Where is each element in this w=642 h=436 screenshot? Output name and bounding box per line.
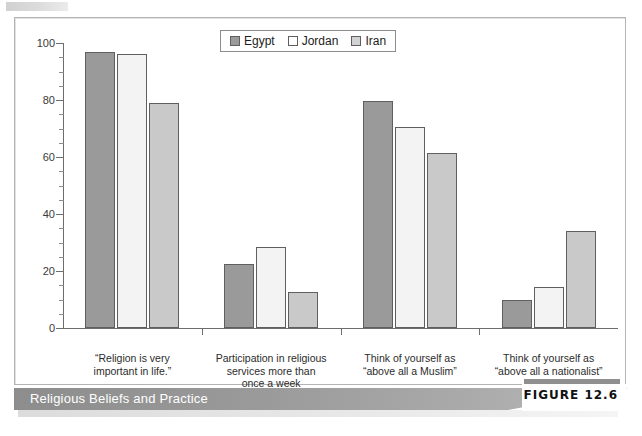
chart-frame: 020406080100 EgyptJordanIran “Religion i… xyxy=(14,17,626,385)
bar-egypt xyxy=(224,264,254,328)
legend: EgyptJordanIran xyxy=(220,30,396,52)
bar-group xyxy=(85,43,179,328)
y-tick-label: 60 xyxy=(43,151,55,163)
x-category-label: Think of yourself as“above all a Muslim” xyxy=(341,352,480,377)
y-tick-label: 40 xyxy=(43,208,55,220)
legend-label: Egypt xyxy=(244,34,275,48)
y-tick-label: 0 xyxy=(49,322,55,334)
y-axis-labels: 020406080100 xyxy=(15,43,55,328)
bar-group xyxy=(224,43,318,328)
x-category-label: Think of yourself as“above all a nationa… xyxy=(479,352,618,377)
legend-swatch-icon xyxy=(288,36,298,46)
y-tick-label: 20 xyxy=(43,265,55,277)
bar-iran xyxy=(427,153,457,328)
legend-label: Iran xyxy=(365,34,386,48)
x-category-label: “Religion is veryimportant in life.” xyxy=(63,352,202,377)
legend-label: Jordan xyxy=(302,34,339,48)
legend-swatch-icon xyxy=(351,36,361,46)
bar-group xyxy=(363,43,457,328)
x-category-label-line: Participation in religious xyxy=(202,352,341,365)
bar-iran xyxy=(566,231,596,328)
bar-iran xyxy=(149,103,179,328)
y-tick-label: 100 xyxy=(37,37,55,49)
bar-jordan xyxy=(117,54,147,328)
footer-shadow xyxy=(18,410,618,417)
x-category-label-line: Think of yourself as xyxy=(341,352,480,365)
legend-item-egypt: Egypt xyxy=(230,34,275,48)
x-category-label-line: services more than xyxy=(202,365,341,378)
x-category-label-line: “above all a nationalist” xyxy=(479,365,618,378)
x-category-label-line: “above all a Muslim” xyxy=(341,365,480,378)
figure-number-rule xyxy=(524,379,620,384)
group-separator-tick xyxy=(202,328,203,335)
x-category-label: Participation in religiousservices more … xyxy=(202,352,341,390)
figure-footer: Religious Beliefs and Practice FIGURE 12… xyxy=(14,388,628,418)
y-tick-label: 80 xyxy=(43,94,55,106)
legend-swatch-icon xyxy=(230,36,240,46)
figure-number-label: FIGURE 12.6 xyxy=(524,388,618,402)
legend-item-jordan: Jordan xyxy=(288,34,339,48)
bar-egypt xyxy=(85,52,115,328)
bar-jordan xyxy=(395,127,425,328)
bar-egypt xyxy=(363,101,393,328)
y-tick-major xyxy=(56,328,64,329)
bar-jordan xyxy=(534,287,564,328)
bar-iran xyxy=(288,292,318,328)
x-category-label-line: important in life.” xyxy=(63,365,202,378)
legend-item-iran: Iran xyxy=(351,34,386,48)
bar-group xyxy=(502,43,596,328)
bar-jordan xyxy=(256,247,286,328)
figure-caption: Religious Beliefs and Practice xyxy=(30,391,208,406)
scan-artifact xyxy=(6,2,68,11)
figure-number-block: FIGURE 12.6 xyxy=(522,384,626,411)
x-category-label-line: Think of yourself as xyxy=(479,352,618,365)
x-category-label-line: “Religion is very xyxy=(63,352,202,365)
bar-egypt xyxy=(502,300,532,329)
plot-area xyxy=(63,43,618,345)
group-separator-tick xyxy=(479,328,480,335)
bar-groups xyxy=(63,43,618,328)
group-separator-tick xyxy=(341,328,342,335)
